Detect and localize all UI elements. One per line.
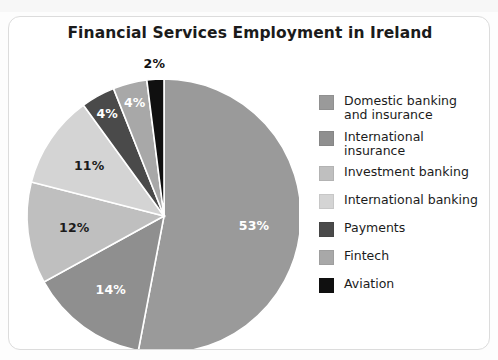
page-top-sliver: [0, 0, 498, 12]
legend-swatch-icon: [319, 194, 334, 209]
legend-item-label: Fintech: [344, 248, 389, 263]
legend-item[interactable]: Investment banking: [319, 164, 487, 186]
pie-slice-label: 14%: [96, 282, 127, 297]
legend-swatch-icon: [319, 95, 334, 110]
pie-slice-label: 12%: [59, 220, 90, 235]
pie-chart-svg: [19, 63, 299, 350]
legend-item-label-line2: and insurance: [344, 108, 457, 122]
legend-swatch-icon: [319, 131, 334, 146]
legend-item[interactable]: Domestic bankingand insurance: [319, 93, 487, 122]
page-title: Financial Services Employment in Ireland: [9, 24, 490, 42]
legend-item-label: Aviation: [344, 276, 394, 291]
pie-chart: 53%14%12%11%4%4%2%: [19, 63, 299, 350]
pie-slice-label: 2%: [144, 55, 166, 70]
legend-item[interactable]: International insurance: [319, 129, 487, 158]
legend-item[interactable]: Fintech: [319, 248, 487, 270]
legend-item[interactable]: Aviation: [319, 276, 487, 298]
chart-screenshot: Financial Services Employment in Ireland…: [0, 0, 498, 360]
legend-item-label: Payments: [344, 220, 405, 235]
legend-item-label: Investment banking: [344, 164, 469, 179]
legend-item-label: Domestic bankingand insurance: [344, 93, 457, 122]
legend-swatch-icon: [319, 278, 334, 293]
pie-slice-group: [27, 79, 299, 350]
chart-legend: Domestic bankingand insuranceInternation…: [319, 93, 487, 304]
legend-swatch-icon: [319, 166, 334, 181]
legend-item[interactable]: International banking: [319, 192, 487, 214]
pie-slice-label: 4%: [96, 105, 118, 120]
legend-item[interactable]: Payments: [319, 220, 487, 242]
pie-slice-label: 4%: [124, 94, 146, 109]
legend-swatch-icon: [319, 250, 334, 265]
chart-card: Financial Services Employment in Ireland…: [8, 16, 490, 350]
pie-slice-label: 53%: [239, 217, 270, 232]
legend-item-label: International insurance: [344, 129, 487, 158]
pie-slice-label: 11%: [74, 158, 105, 173]
legend-item-label: International banking: [344, 192, 478, 207]
legend-swatch-icon: [319, 222, 334, 237]
